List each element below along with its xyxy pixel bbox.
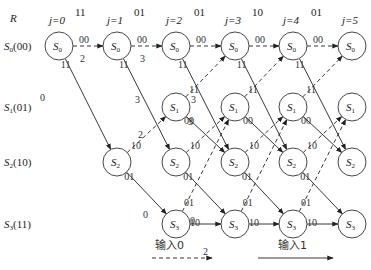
state-node: S0 [221,32,249,60]
column-header: j=0 [47,14,65,26]
path-metric: 0 [143,209,148,220]
path-metric: 3 [135,94,140,105]
path-metric: 0 [190,215,195,226]
state-node: S1 [162,93,190,121]
state-label: S1(01) [4,101,32,115]
state-node: S2 [221,148,249,176]
branch-output-label: 00 [137,34,147,45]
path-metric: 2 [138,129,143,140]
state-label: S0(00) [4,40,32,54]
received-symbol: 11 [75,6,86,18]
column-header: j=4 [281,14,299,26]
row-header: R [9,12,17,24]
branch-output-label: 01 [184,197,194,208]
branch-output-label: 11 [306,84,316,95]
branch-output-label: 11 [237,59,247,70]
state-node: S0 [103,32,131,60]
column-header: j=5 [340,14,358,26]
state-node: S3 [221,210,249,238]
column-header: j=2 [164,14,182,26]
branch-output-label: 00 [313,34,323,45]
branch-output-label: 00 [196,34,206,45]
state-node: S0 [338,32,366,60]
trellis-branch [65,59,110,150]
path-metric: 2 [203,246,208,257]
state-node: S0 [279,32,307,60]
branch-output-label: 10 [307,217,317,228]
state-node: S1 [279,93,307,121]
path-metric: 0 [40,92,45,103]
trellis-diagram: 0011001110010011110010010110001111001001… [0,0,371,270]
received-symbol: 01 [194,6,205,18]
column-header: j=3 [223,14,241,26]
state-label: S3(11) [4,218,31,232]
branch-output-label: 10 [190,140,200,151]
received-symbol: 10 [252,6,264,18]
branch-output-label: 11 [295,59,305,70]
received-symbol: 01 [311,6,322,18]
state-node: S2 [162,148,190,176]
branch-output-label: 01 [243,197,253,208]
branch-output-label: 10 [307,140,317,151]
received-symbol: 01 [134,6,145,18]
state-node: S2 [279,148,307,176]
state-node: S3 [162,210,190,238]
state-node: S1 [338,93,366,121]
legend-input1-label: 输入1 [278,236,307,252]
state-node: S2 [338,148,366,176]
path-metric: 3 [140,53,145,64]
path-metric: 3 [188,116,193,127]
branch-output-label: 00 [79,34,89,45]
branch-output-label: 11 [178,59,188,70]
state-node: S2 [103,148,131,176]
path-metric: 3 [191,94,196,105]
state-label: S2(10) [4,156,32,170]
column-header: j=1 [105,14,123,26]
state-node: S1 [221,93,249,121]
branch-output-label: 11 [248,84,258,95]
legend-input0-label: 输入0 [155,236,184,252]
state-node: S3 [338,210,366,238]
path-metric: 2 [80,53,85,64]
state-node: S3 [279,210,307,238]
branch-output-label: 11 [61,59,71,70]
branch-output-label: 00 [255,34,265,45]
state-node: S0 [162,32,190,60]
branch-output-label: 10 [249,140,259,151]
branch-output-label: 01 [301,197,311,208]
state-node: S0 [45,32,73,60]
branch-output-label: 10 [249,217,259,228]
branch-output-label: 11 [119,59,129,70]
branch-output-label: 10 [131,140,141,151]
